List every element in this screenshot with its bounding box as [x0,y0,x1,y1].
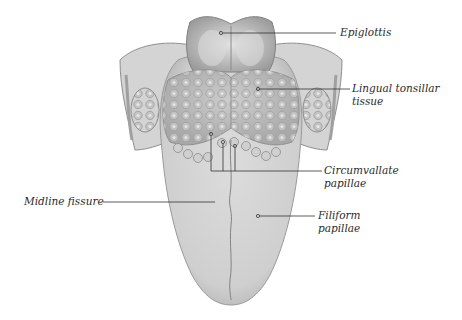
label-filiform-line2: papillae [318,222,361,235]
label-lingual-tonsillar-tissue: Lingual tonsillar tissue [352,82,440,108]
label-circumvallate-papillae: Circumvallate papillae [324,164,399,190]
label-filiform-line1: Filiform [318,209,361,222]
label-epiglottis: Epiglottis [340,26,391,39]
label-midline-fissure: Midline fissure [24,195,104,208]
tongue-anatomy-diagram: Epiglottis Lingual tonsillar tissue Circ… [0,0,462,320]
label-filiform-papillae: Filiform papillae [318,209,361,235]
label-midline-fissure-text: Midline fissure [24,195,104,208]
tongue-illustration [0,0,462,320]
label-circumvallate-line2: papillae [324,177,399,190]
label-lingual-tonsillar-line2: tissue [352,95,440,108]
label-epiglottis-text: Epiglottis [340,26,391,39]
label-circumvallate-line1: Circumvallate [324,164,399,177]
epiglottis-shape [187,17,276,72]
label-lingual-tonsillar-line1: Lingual tonsillar [352,82,440,95]
